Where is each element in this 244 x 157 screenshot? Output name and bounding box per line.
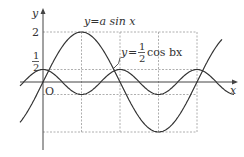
svg-text:=: = (128, 46, 137, 59)
y-axis-arrow-icon (41, 8, 46, 14)
svg-text:2: 2 (139, 53, 145, 64)
svg-text:cos bx: cos bx (147, 46, 183, 59)
tick-label-half: 1 2 (32, 50, 39, 73)
svg-text:1: 1 (33, 50, 39, 61)
origin-label: O (45, 85, 54, 98)
svg-text:y=a sin x: y=a sin x (83, 15, 136, 28)
tick-label-2: 2 (32, 26, 39, 39)
trig-graph: y x O 2 1 2 y=a sin x y = 1 2 cos bx (0, 0, 244, 157)
sin-curve-label: y=a sin x (83, 15, 136, 28)
cos-label-leader (114, 58, 120, 68)
cos-curve-label: y = 1 2 cos bx (120, 41, 183, 64)
svg-text:y: y (120, 46, 128, 59)
svg-text:1: 1 (139, 41, 145, 52)
svg-text:2: 2 (33, 62, 39, 73)
x-axis-label: x (230, 84, 237, 97)
y-axis-label: y (31, 7, 39, 20)
